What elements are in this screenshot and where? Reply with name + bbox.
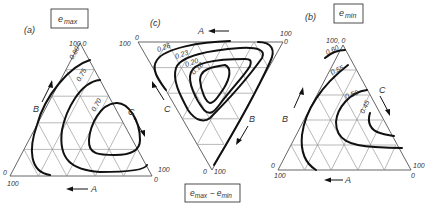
triangle-c-grid bbox=[153, 42, 268, 144]
axis-a-arrow-A: A bbox=[66, 184, 97, 194]
panel-tag: (c) bbox=[150, 18, 161, 28]
arrow-head-icon bbox=[299, 87, 304, 95]
contour-label: 0.50 bbox=[344, 89, 359, 100]
corner-label-top: 100, 0 bbox=[326, 37, 346, 44]
axis-c-arrow-C: C bbox=[152, 81, 171, 114]
corner-label-left-a: 0 bbox=[271, 162, 275, 169]
contour-label: 0.45 bbox=[359, 99, 371, 114]
triangle-a-grid bbox=[24, 70, 137, 176]
corner-label-bottom-a: 0 bbox=[203, 168, 207, 175]
axis-b-arrow-A: A bbox=[324, 175, 351, 185]
axis-label-A: A bbox=[197, 26, 204, 36]
axis-label-A: A bbox=[344, 175, 351, 185]
corner-label-right-a: 100 bbox=[158, 166, 170, 173]
panel-b: 0.60 0.55 0.50 0.45 100, 0 0 100 100 0 B… bbox=[271, 4, 425, 185]
axis-c-arrow-A: A bbox=[197, 26, 229, 36]
corner-label-left-a: 100 bbox=[119, 40, 131, 47]
corner-label-right-a: 100 bbox=[280, 30, 292, 37]
axis-b-arrow-B: B bbox=[282, 87, 304, 124]
arrow-head-icon bbox=[324, 178, 331, 183]
arrow-head-icon bbox=[48, 80, 53, 88]
contour-label: 0.80 bbox=[68, 45, 81, 60]
arrow-head-icon bbox=[152, 81, 157, 88]
axis-label-A: A bbox=[90, 184, 97, 194]
corner-label-right-b: 0 bbox=[284, 38, 288, 45]
corner-label-right-b: 0 bbox=[411, 172, 415, 179]
axis-label-C: C bbox=[379, 85, 386, 95]
arrow-head-icon bbox=[66, 187, 73, 192]
axis-label-C: C bbox=[164, 104, 171, 114]
corner-label-left-b: 100 bbox=[7, 180, 19, 187]
panel-c: 0.26 0.23 0.20 0.18 100 0 100 0 0 100 A … bbox=[119, 18, 292, 202]
axis-label-B: B bbox=[282, 114, 288, 124]
axis-label-B: B bbox=[249, 114, 255, 124]
corner-label-right-b: 0 bbox=[154, 176, 158, 183]
ternary-diagrams: 0.80 0.75 0.70 100 0 0 100 100 0 B C A (… bbox=[0, 0, 425, 209]
axis-a-arrow-C: C bbox=[128, 107, 145, 137]
axis-label-B: B bbox=[33, 104, 39, 114]
panel-tag: (b) bbox=[305, 12, 316, 22]
corner-label-left-b: 100 bbox=[274, 172, 286, 179]
axis-label-C: C bbox=[128, 107, 135, 117]
corner-label-left-a: 0 bbox=[3, 169, 7, 176]
arrow-head-icon bbox=[208, 29, 215, 34]
triangle-b-outline bbox=[278, 45, 411, 170]
corner-label-right-a: 100 bbox=[413, 162, 425, 169]
panel-a: 0.80 0.75 0.70 100 0 0 100 100 0 B C A (… bbox=[3, 9, 170, 194]
axis-b-arrow-C: C bbox=[379, 85, 390, 116]
corner-label-top: 100 0 bbox=[69, 40, 87, 47]
arrow-head-icon bbox=[236, 138, 242, 145]
corner-label-left-b: 0 bbox=[135, 34, 139, 41]
corner-label-bottom-b: 100 bbox=[214, 168, 226, 175]
panel-tag: (a) bbox=[24, 25, 35, 35]
contour-c-023b bbox=[175, 48, 263, 121]
arrow-head-icon bbox=[385, 109, 390, 116]
